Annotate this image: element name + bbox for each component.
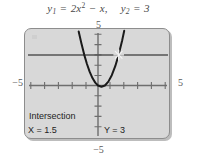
y1-subscript: 1 <box>52 7 56 16</box>
y1-equals-sign: = <box>59 2 67 14</box>
y2-equals-sign: = <box>133 2 141 14</box>
status-x-readout: X = 1.5 <box>28 125 57 135</box>
y2-value: 3 <box>144 2 150 14</box>
curve-y1-parabola <box>79 31 125 87</box>
y2-subscript: 2 <box>126 7 130 16</box>
x-max-label: 5 <box>178 77 192 88</box>
status-intersection-label: Intersection <box>29 111 76 121</box>
y-min-label: −5 <box>0 144 197 155</box>
x-min-label: −5 <box>5 77 23 88</box>
status-y-readout: Y = 3 <box>104 125 125 135</box>
y1-linear-term: x, <box>100 2 108 14</box>
y1-exponent: 2 <box>81 1 85 10</box>
y1-coefficient-term: 2x <box>71 2 82 14</box>
graphing-calculator-figure: y1 = 2x2 − x, y2 = 3 5 −5 −5 5 <box>0 0 197 159</box>
calculator-screen: Intersection X = 1.5 Y = 3 <box>24 28 170 139</box>
screen-artifact <box>32 35 37 39</box>
equation-header: y1 = 2x2 − x, y2 = 3 <box>0 1 197 16</box>
graph-plot-area <box>25 29 170 139</box>
y1-minus-sign: − <box>88 2 96 14</box>
intersection-cursor-icon <box>113 50 124 61</box>
